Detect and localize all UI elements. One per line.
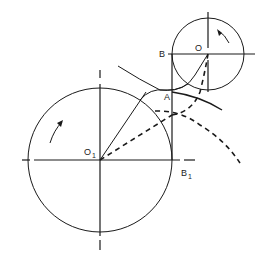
arc-through-a	[140, 54, 208, 100]
lower-tangent-arc	[172, 92, 222, 110]
line-o1-to-a	[100, 92, 146, 160]
label-b: B	[159, 49, 165, 59]
label-o1: O1	[84, 147, 96, 159]
small-circle-centerlines	[168, 12, 255, 92]
gear-contact-diagram: B O A O1 B1	[0, 0, 265, 264]
small-arrow-head	[217, 29, 222, 36]
upper-tangent-arc	[118, 66, 188, 90]
label-b1: B1	[181, 168, 192, 180]
label-a: A	[164, 92, 170, 102]
label-o: O	[195, 43, 202, 53]
